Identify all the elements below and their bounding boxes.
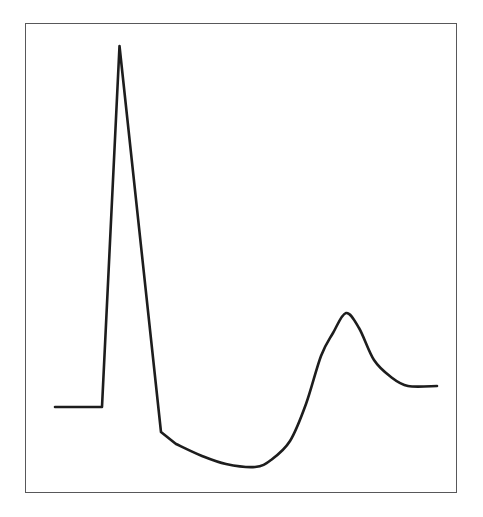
figure-canvas	[0, 0, 483, 517]
waveform-plot	[0, 0, 483, 517]
waveform-line	[55, 46, 437, 467]
